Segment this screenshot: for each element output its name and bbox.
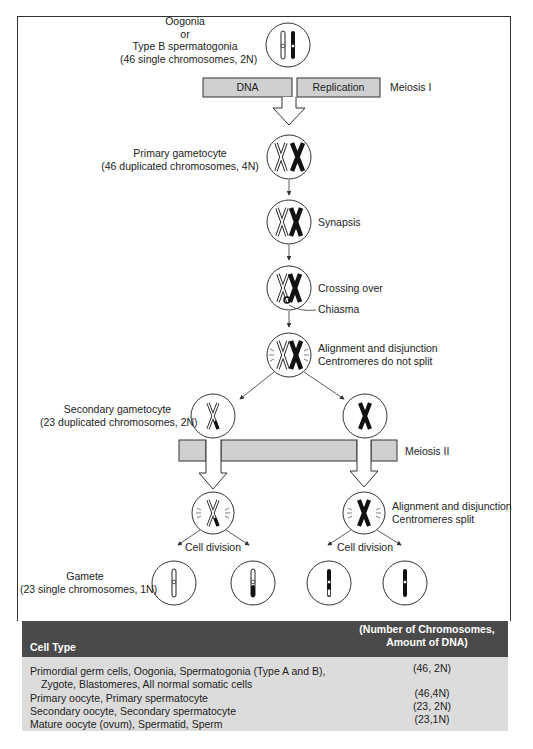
table-row: Primary oocyte, Primary spermatocyte bbox=[30, 692, 208, 704]
type-b-line: Type B spermatogonia bbox=[120, 40, 250, 53]
table-row-value: (46, 2N) bbox=[412, 662, 452, 674]
gamete-1-cell-icon bbox=[152, 561, 196, 605]
table-row-value: (23,1N) bbox=[412, 713, 452, 725]
primary-line1: Primary gametocyte bbox=[95, 147, 265, 160]
oogonia-label: Oogonia or Type B spermatogonia (46 sing… bbox=[120, 15, 250, 65]
secondary-right-cell-icon bbox=[343, 394, 387, 438]
alignment1-cell-icon bbox=[267, 333, 311, 377]
meiosis2-bar-right bbox=[371, 440, 397, 461]
secondary-line2: (23 duplicated chromosomes, 2N) bbox=[40, 416, 195, 429]
alignment2-right-cell-icon bbox=[343, 492, 385, 534]
or-line: or bbox=[120, 28, 250, 41]
alignment2-label: Alignment and disjunction Centromeres sp… bbox=[392, 500, 512, 525]
chromosome-count-line: (46 single chromosomes, 2N) bbox=[120, 53, 250, 66]
oogonia-line: Oogonia bbox=[120, 15, 250, 28]
oogonia-cell-icon bbox=[266, 23, 310, 67]
alignment2-left-cell-icon bbox=[192, 492, 234, 534]
crossing-over-label: Crossing over bbox=[318, 282, 383, 295]
table-row: Primordial germ cells, Oogonia, Spermato… bbox=[30, 665, 325, 677]
meiosis2-bar-middle bbox=[221, 440, 357, 461]
chiasma-label: Chiasma bbox=[318, 303, 359, 316]
meiosis1-arrow-icon bbox=[273, 97, 305, 125]
primary-line2: (46 duplicated chromosomes, 4N) bbox=[95, 160, 265, 173]
alignment1-line2: Centromeres do not split bbox=[318, 355, 438, 368]
gamete-line1: Gamete bbox=[20, 570, 150, 583]
dna-label: DNA bbox=[203, 81, 292, 93]
secondary-line1: Secondary gametocyte bbox=[40, 403, 195, 416]
cell-division-left-label: Cell division bbox=[185, 541, 241, 554]
table-row-value: (23, 2N) bbox=[412, 700, 452, 712]
cell-division-right-label: Cell division bbox=[337, 541, 393, 554]
alignment2-line1: Alignment and disjunction bbox=[392, 500, 512, 513]
header-chrom-line1: (Number of Chromosomes, bbox=[352, 623, 502, 636]
table-body: Primordial germ cells, Oogonia, Spermato… bbox=[22, 657, 508, 731]
replication-label: Replication bbox=[297, 81, 380, 93]
gamete-label: Gamete (23 single chromosomes, 1N) bbox=[20, 570, 150, 595]
primary-gametocyte-label: Primary gametocyte (46 duplicated chromo… bbox=[95, 147, 265, 172]
alignment1-line1: Alignment and disjunction bbox=[318, 342, 438, 355]
table-row: Mature oocyte (ovum), Spermatid, Sperm bbox=[30, 718, 223, 730]
secondary-left-cell-icon bbox=[191, 394, 235, 438]
gamete-2-cell-icon bbox=[231, 561, 275, 605]
primary-gametocyte-cell-icon bbox=[267, 135, 311, 179]
table-row: Secondary oocyte, Secondary spermatocyte bbox=[30, 705, 236, 717]
meiosis2-bar-left bbox=[179, 440, 206, 461]
alignment2-line2: Centromeres split bbox=[392, 513, 512, 526]
table-header: Cell Type (Number of Chromosomes, Amount… bbox=[22, 621, 508, 657]
secondary-gametocyte-label: Secondary gametocyte (23 duplicated chro… bbox=[40, 403, 195, 428]
header-cell-type: Cell Type bbox=[30, 641, 76, 653]
synapsis-label: Synapsis bbox=[318, 216, 361, 229]
meiosis-1-label: Meiosis I bbox=[390, 81, 431, 94]
gamete-line2: (23 single chromosomes, 1N) bbox=[20, 583, 150, 596]
table-row-value: (46,4N) bbox=[412, 687, 452, 699]
chromosome-table: Cell Type (Number of Chromosomes, Amount… bbox=[22, 621, 508, 731]
synapsis-cell-icon bbox=[267, 200, 311, 244]
meiosis-2-label: Meiosis II bbox=[405, 445, 449, 458]
header-chrom-line2: Amount of DNA) bbox=[352, 636, 502, 649]
gamete-3-cell-icon bbox=[307, 561, 351, 605]
table-row: Zygote, Blastomeres, All normal somatic … bbox=[41, 678, 252, 690]
header-chromosomes: (Number of Chromosomes, Amount of DNA) bbox=[352, 623, 502, 649]
gamete-4-cell-icon bbox=[383, 561, 427, 605]
alignment1-label: Alignment and disjunction Centromeres do… bbox=[318, 342, 438, 367]
crossing-over-cell-icon bbox=[267, 266, 311, 310]
